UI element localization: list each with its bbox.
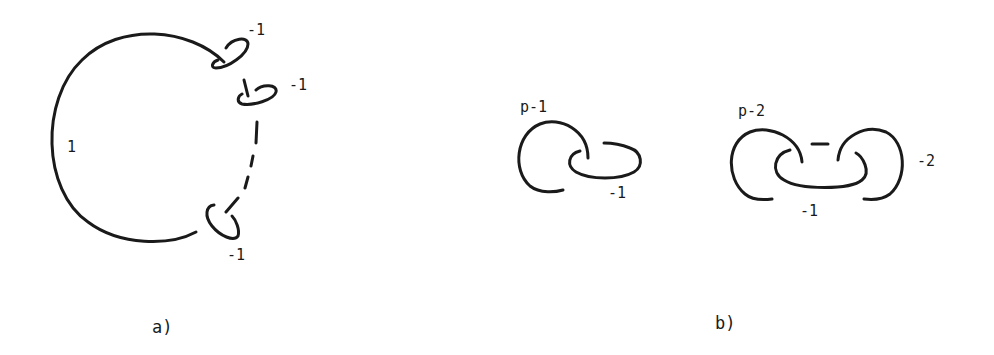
main-component-label: 1 xyxy=(67,140,76,155)
knot-diagram-figure xyxy=(0,0,994,355)
ellipse-minus-1-label-left: -1 xyxy=(608,186,626,201)
panel-b-left-diagram xyxy=(519,122,641,192)
arc-p-2-label: p-2 xyxy=(738,104,765,119)
panel-b-caption: b) xyxy=(715,313,735,333)
panel-a-diagram xyxy=(52,34,276,242)
main-component-arc xyxy=(52,34,224,242)
arc-minus-2-label: -2 xyxy=(917,154,935,169)
clasp-3 xyxy=(207,205,239,238)
arc-p-1 xyxy=(519,122,588,192)
clasp-2-loop xyxy=(238,86,276,105)
panel-a-caption: a) xyxy=(152,317,172,337)
ellipse-minus-1 xyxy=(570,143,641,178)
ellipse-minus-1-label-right: -1 xyxy=(800,204,818,219)
clasp-1 xyxy=(212,39,248,68)
dashed-chain xyxy=(226,122,257,212)
clasp-2 xyxy=(244,80,248,96)
arc-p-2 xyxy=(731,130,802,200)
clasp-2-label: -1 xyxy=(289,78,307,93)
arc-p-1-label: p-1 xyxy=(520,100,547,115)
arc-minus-2 xyxy=(838,130,902,200)
clasp-1-label: -1 xyxy=(247,23,265,38)
clasp-3-label: -1 xyxy=(227,248,245,263)
ellipse-minus-1 xyxy=(775,150,866,188)
panel-b-right-diagram xyxy=(731,130,902,200)
